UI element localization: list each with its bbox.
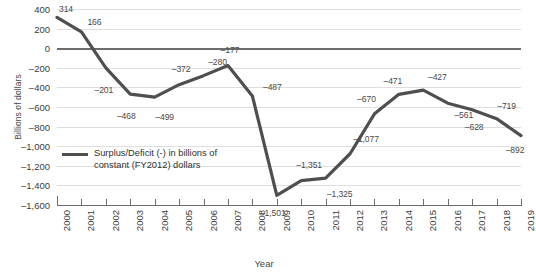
legend-label-line1: Surplus/Deficit (-) in billions of — [94, 148, 217, 160]
x-axis-tick-label: 2003 — [134, 210, 145, 231]
data-point-value-label: –201 — [94, 85, 113, 95]
data-point-value-label: –177 — [221, 45, 240, 55]
x-axis-tick-mark — [423, 199, 424, 206]
x-axis-tick-mark — [521, 199, 522, 206]
data-point-value-label: –1,325 — [327, 189, 353, 199]
data-point-value-label: –719 — [497, 101, 516, 111]
x-axis-tick-mark — [399, 199, 400, 206]
x-axis-tick-mark — [448, 199, 449, 206]
x-axis-tick-label: 2019 — [525, 210, 536, 231]
y-axis-tick-label: –1,600 — [8, 200, 50, 211]
x-axis-tick-label: 2001 — [85, 210, 96, 231]
data-point-value-label: –487 — [263, 82, 282, 92]
x-axis-tick-label: 2000 — [61, 210, 72, 231]
x-axis-tick-label: 2007 — [232, 210, 243, 231]
data-point-value-label: –427 — [428, 72, 447, 82]
x-axis-tick-mark — [350, 199, 351, 206]
legend-color-swatch — [62, 153, 88, 156]
x-axis-tick-mark — [252, 199, 253, 206]
legend-label: Surplus/Deficit (-) in billions of const… — [94, 148, 217, 171]
y-axis-tick-label: –600 — [8, 102, 50, 113]
x-axis-tick-mark — [57, 199, 58, 206]
data-point-value-label: –892 — [506, 145, 525, 155]
x-axis-tick-label: 2010 — [305, 210, 316, 231]
y-axis-tick-label: –1,400 — [8, 180, 50, 191]
data-point-value-label: –670 — [357, 94, 376, 104]
x-axis-tick-mark — [155, 199, 156, 206]
y-axis-tick-label: –1,000 — [8, 141, 50, 152]
x-axis-tick-mark — [497, 199, 498, 206]
x-axis-tick-label: 2002 — [110, 210, 121, 231]
x-axis-tick-label: 2008 — [256, 210, 267, 231]
data-point-value-label: 314 — [59, 4, 73, 14]
data-point-value-label: –280 — [208, 57, 227, 67]
x-axis-tick-label: 2018 — [501, 210, 512, 231]
x-axis-tick-mark — [81, 199, 82, 206]
x-axis-tick-mark — [301, 199, 302, 206]
series-line-chart — [57, 9, 521, 205]
x-axis-line — [57, 205, 521, 206]
x-axis-tick-mark — [374, 199, 375, 206]
data-point-value-label: –1,351 — [296, 160, 322, 170]
x-axis-tick-label: 2005 — [183, 210, 194, 231]
data-point-value-label: –628 — [465, 122, 484, 132]
y-axis-tick-label: 400 — [8, 4, 50, 15]
x-axis-tick-mark — [179, 199, 180, 206]
y-axis-tick-label: –400 — [8, 82, 50, 93]
data-point-value-label: –468 — [117, 111, 136, 121]
x-axis-tick-mark — [472, 199, 473, 206]
y-axis-tick-label: –800 — [8, 121, 50, 132]
x-axis-tick-label: 2014 — [403, 210, 414, 231]
plot-area — [57, 9, 521, 205]
x-axis-tick-label: 2017 — [476, 210, 487, 231]
data-point-value-label: –1,077 — [353, 134, 379, 144]
data-point-value-label: –372 — [172, 64, 191, 74]
x-axis-tick-label: 2016 — [452, 210, 463, 231]
y-axis-tick-label: 200 — [8, 23, 50, 34]
y-axis-tick-label: –1,200 — [8, 160, 50, 171]
data-point-value-label: –499 — [155, 112, 174, 122]
x-axis-tick-label: 2012 — [354, 210, 365, 231]
x-axis-tick-label: 2015 — [427, 210, 438, 231]
y-axis-tick-label: –200 — [8, 62, 50, 73]
data-point-value-label: –471 — [384, 76, 403, 86]
y-axis-tick-label: 0 — [8, 43, 50, 54]
y-axis-tick-labels: 4002000–200–400–600–800–1,000–1,200–1,40… — [8, 0, 50, 280]
x-axis-tick-mark — [204, 199, 205, 206]
data-point-value-label: –561 — [454, 110, 473, 120]
data-point-value-label: 166 — [87, 17, 101, 27]
x-axis-title: Year — [0, 258, 528, 269]
x-axis-tick-mark — [228, 199, 229, 206]
x-axis-tick-label: 2006 — [208, 210, 219, 231]
x-axis-tick-mark — [277, 199, 278, 206]
x-axis-tick-label: 2009 — [281, 210, 292, 231]
x-axis-tick-mark — [106, 199, 107, 206]
x-axis-tick-label: 2004 — [159, 210, 170, 231]
x-axis-tick-mark — [326, 199, 327, 206]
chart-legend: Surplus/Deficit (-) in billions of const… — [62, 148, 217, 171]
x-axis-tick-label: 2013 — [378, 210, 389, 231]
legend-label-line2: constant (FY2012) dollars — [94, 160, 217, 172]
x-axis-tick-label: 2011 — [330, 210, 341, 230]
x-axis-tick-mark — [130, 199, 131, 206]
